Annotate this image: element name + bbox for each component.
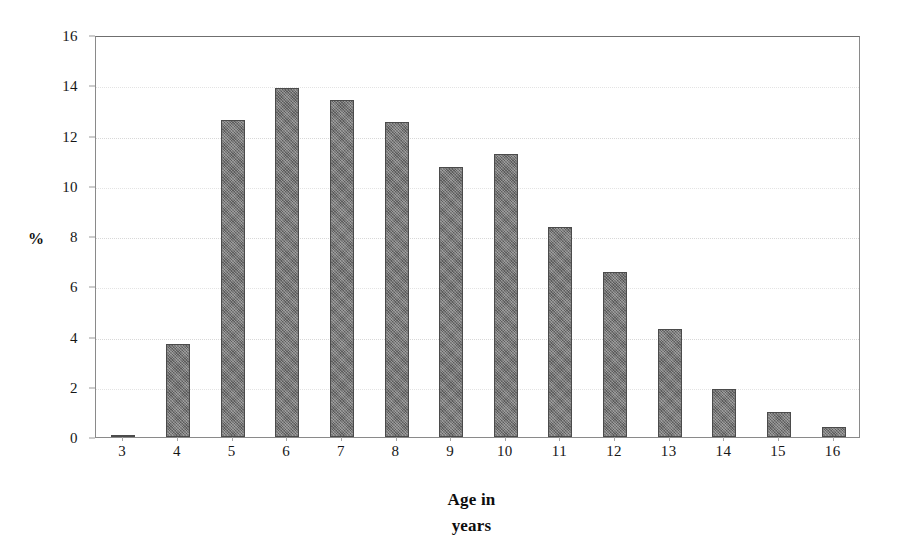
x-axis-tick-mark [232, 437, 233, 441]
x-axis-tick-label: 15 [770, 444, 786, 459]
x-axis-title: Age in years [0, 487, 907, 539]
bar-age-16 [822, 427, 846, 437]
bar-age-11 [548, 227, 572, 437]
x-axis-tick-label: 11 [552, 444, 567, 459]
x-axis-tick-mark [723, 437, 724, 441]
y-axis-tick-label: 0 [70, 431, 78, 446]
bar-age-13 [658, 329, 682, 437]
x-axis-tick-label: 10 [497, 444, 513, 459]
x-axis-tick-mark [341, 437, 342, 441]
bar-age-14 [712, 389, 736, 437]
bar-age-9 [439, 167, 463, 437]
x-axis-tick-label: 13 [661, 444, 677, 459]
x-axis-tick-label: 12 [606, 444, 622, 459]
y-axis-tick-label: 10 [62, 179, 78, 194]
y-axis-tick-label: 12 [62, 129, 78, 144]
x-axis-title-line-2: years [36, 513, 907, 539]
y-axis-tick-label: 4 [70, 330, 78, 345]
y-axis: 0246810121416 [0, 36, 88, 438]
x-axis-tick-mark [614, 437, 615, 441]
x-axis-tick-label: 3 [118, 444, 126, 459]
bar-age-5 [221, 120, 245, 437]
x-axis-tick-label: 5 [228, 444, 236, 459]
x-axis-title-line-1: Age in [36, 487, 907, 513]
bar-age-12 [603, 272, 627, 437]
x-axis: 345678910111213141516 [95, 440, 860, 466]
bar-age-10 [494, 154, 518, 437]
x-axis-tick-label: 7 [337, 444, 345, 459]
x-axis-tick-mark [833, 437, 834, 441]
x-axis-tick-label: 4 [173, 444, 181, 459]
y-axis-tick-label: 6 [70, 280, 78, 295]
x-axis-tick-mark [559, 437, 560, 441]
bar-chart-figure: 0246810121416 % 345678910111213141516 Ag… [0, 0, 907, 552]
x-axis-tick-label: 14 [715, 444, 731, 459]
bar-age-7 [330, 100, 354, 437]
x-axis-tick-mark [286, 437, 287, 441]
y-axis-tick-label: 8 [70, 230, 78, 245]
x-axis-tick-mark [505, 437, 506, 441]
x-axis-tick-mark [669, 437, 670, 441]
y-axis-tick-label: 16 [62, 29, 78, 44]
x-axis-tick-label: 8 [392, 444, 400, 459]
x-axis-tick-mark [450, 437, 451, 441]
x-axis-tick-mark [396, 437, 397, 441]
y-axis-tick-label: 14 [62, 79, 78, 94]
bar-age-8 [385, 122, 409, 437]
y-axis-tick-label: 2 [70, 380, 78, 395]
x-axis-tick-label: 9 [446, 444, 454, 459]
y-axis-title: % [28, 231, 44, 247]
x-axis-tick-mark [177, 437, 178, 441]
bar-age-3 [111, 435, 135, 438]
bar-series [96, 37, 859, 437]
plot-area [95, 36, 860, 438]
x-axis-tick-label: 6 [282, 444, 290, 459]
bar-age-4 [166, 344, 190, 437]
x-axis-tick-label: 16 [825, 444, 841, 459]
bar-age-15 [767, 412, 791, 437]
bar-age-6 [275, 88, 299, 437]
x-axis-tick-mark [122, 437, 123, 441]
x-axis-tick-mark [778, 437, 779, 441]
